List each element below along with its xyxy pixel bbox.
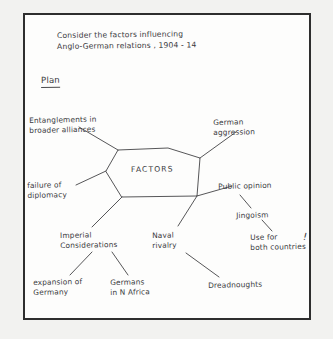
node-expansion-of-germany: expansion of Germany [33, 277, 82, 297]
scanned-page: Consider the factors influencing Anglo-G… [0, 0, 333, 339]
node-dreadnoughts: Dreadnoughts [208, 280, 262, 291]
node-use-for-both-countries: Use for both countries [250, 232, 306, 252]
page-title-line2: Anglo-German relations , 1904 - 14 [57, 39, 196, 52]
center-node-label: FACTORS [131, 164, 174, 174]
section-heading-plan: Plan [41, 76, 60, 88]
node-public-opinion: Public opinion [218, 181, 272, 192]
node-entanglements: Entanglements in broader alliances [29, 115, 97, 136]
node-german-aggression: German aggression [213, 117, 255, 137]
node-naval-rivalry: Naval rivalry [152, 231, 177, 251]
node-jingoism: Jingoism [236, 210, 269, 220]
node-imperial-considerations: Imperial Considerations [60, 230, 118, 250]
node-failure-of-diplomacy: failure of diplomacy [27, 180, 67, 200]
node-germans-in-n-africa: Germans in N Africa [110, 277, 150, 297]
